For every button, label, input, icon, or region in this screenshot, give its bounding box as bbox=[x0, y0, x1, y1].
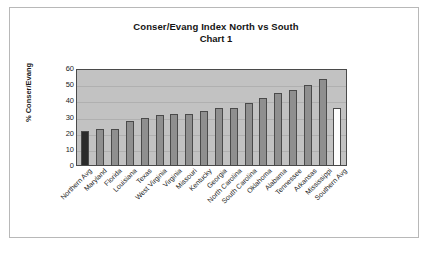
bar bbox=[96, 129, 104, 165]
y-axis-tick-labels: 6050403020100 bbox=[56, 62, 74, 172]
plot-area bbox=[76, 69, 347, 166]
bar bbox=[304, 85, 312, 165]
bar-series bbox=[77, 70, 346, 165]
bar bbox=[111, 129, 119, 165]
y-tick-label: 10 bbox=[56, 146, 74, 154]
chart-subtitle: Chart 1 bbox=[0, 33, 432, 45]
y-tick-label: 30 bbox=[56, 114, 74, 122]
bar bbox=[185, 114, 193, 165]
y-tick-label: 50 bbox=[56, 81, 74, 89]
bar bbox=[274, 93, 282, 165]
bar bbox=[245, 103, 253, 165]
y-tick-label: 0 bbox=[56, 162, 74, 170]
bar bbox=[289, 90, 297, 165]
bar bbox=[215, 108, 223, 165]
x-axis-tick-labels: Northern AvgMarylandFloridaLouisianaTexa… bbox=[76, 167, 347, 247]
bar bbox=[141, 118, 149, 165]
bar bbox=[156, 115, 164, 165]
bar bbox=[200, 111, 208, 165]
chart-figure: Conser/Evang Index North vs South Chart … bbox=[0, 0, 432, 253]
bar bbox=[170, 114, 178, 165]
bar bbox=[319, 79, 327, 165]
bar bbox=[126, 121, 134, 165]
y-tick-label: 40 bbox=[56, 97, 74, 105]
bar bbox=[81, 131, 89, 165]
bar bbox=[333, 108, 341, 165]
y-tick-label: 20 bbox=[56, 130, 74, 138]
bar bbox=[230, 108, 238, 165]
y-axis-title: % Conser/Evang bbox=[24, 43, 33, 143]
y-tick-label: 60 bbox=[56, 65, 74, 73]
chart-title: Conser/Evang Index North vs South bbox=[0, 21, 432, 33]
bar bbox=[259, 98, 267, 165]
